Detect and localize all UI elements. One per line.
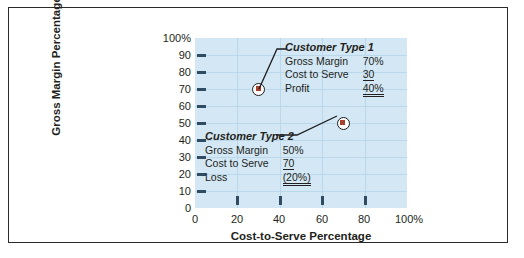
annotation-value: 50% <box>283 144 317 158</box>
x-tick-mark <box>364 196 367 205</box>
gridline-horizontal <box>195 191 407 192</box>
x-tick-label: 40 <box>256 214 302 225</box>
y-tick-label: 50 <box>157 118 191 129</box>
y-tick-mark <box>197 71 206 74</box>
marker-core <box>340 120 345 125</box>
annotation-key: Gross Margin <box>285 55 363 69</box>
annotation-row: Loss (20%) <box>205 171 317 186</box>
annotation-value: 30 <box>363 68 397 82</box>
annotation-row: Gross Margin 70% <box>285 55 397 69</box>
y-tick-mark <box>197 190 206 193</box>
annotation-key: Cost to Serve <box>285 68 363 82</box>
y-tick-label: 30 <box>157 152 191 163</box>
gridline-horizontal <box>195 106 407 107</box>
x-tick-mark <box>236 196 239 205</box>
x-tick-mark <box>279 196 282 205</box>
annotation-value: 70% <box>363 55 397 69</box>
annotation-customer-type-1: Customer Type 1 Gross Margin 70% Cost to… <box>285 41 397 97</box>
y-axis-title: Gross Margin Percentage <box>50 0 62 151</box>
annotation-key: Cost to Serve <box>205 157 283 171</box>
y-tick-label: 100% <box>157 33 191 44</box>
y-tick-label: 70 <box>157 84 191 95</box>
data-point-customer-type-2[interactable] <box>337 117 350 130</box>
x-tick-label: 0 <box>172 214 218 225</box>
annotation-row: Cost to Serve 30 <box>285 68 397 82</box>
x-tick-label: 100% <box>386 214 432 225</box>
gridline-horizontal <box>195 123 407 124</box>
annotation-title: Customer Type 1 <box>285 41 397 55</box>
x-tick-label: 60 <box>299 214 345 225</box>
y-tick-label: 80 <box>157 67 191 78</box>
annotation-value: (20%) <box>283 171 317 186</box>
data-point-customer-type-1[interactable] <box>252 83 265 96</box>
annotation-row: Profit 40% <box>285 82 397 97</box>
annotation-value: 70 <box>283 157 317 171</box>
y-tick-mark <box>197 54 206 57</box>
annotation-customer-type-2: Customer Type 2 Gross Margin 50% Cost to… <box>205 130 317 186</box>
y-tick-label: 20 <box>157 169 191 180</box>
y-tick-label: 0 <box>157 203 191 214</box>
annotation-key: Profit <box>285 82 363 97</box>
annotation-title: Customer Type 2 <box>205 130 317 144</box>
annotation-table: Gross Margin 50% Cost to Serve 70 Loss (… <box>205 144 317 186</box>
annotation-row: Gross Margin 50% <box>205 144 317 158</box>
y-tick-label: 60 <box>157 101 191 112</box>
y-tick-mark <box>197 122 206 125</box>
y-tick-mark <box>197 105 206 108</box>
marker-core <box>256 86 261 91</box>
y-tick-mark <box>197 88 206 91</box>
annotation-value: 40% <box>363 82 397 97</box>
chart-frame: Gross Margin Percentage 100% 90 80 70 60… <box>8 7 508 243</box>
x-tick-label: 80 <box>341 214 387 225</box>
annotation-table: Gross Margin 70% Cost to Serve 30 Profit… <box>285 55 397 97</box>
x-tick-label: 20 <box>214 214 260 225</box>
annotation-key: Loss <box>205 171 283 186</box>
x-axis-title: Cost-to-Serve Percentage <box>195 230 407 242</box>
annotation-row: Cost to Serve 70 <box>205 157 317 171</box>
annotation-key: Gross Margin <box>205 144 283 158</box>
y-tick-label: 40 <box>157 135 191 146</box>
y-tick-label: 10 <box>157 186 191 197</box>
x-tick-mark <box>321 196 324 205</box>
y-tick-label: 90 <box>157 50 191 61</box>
